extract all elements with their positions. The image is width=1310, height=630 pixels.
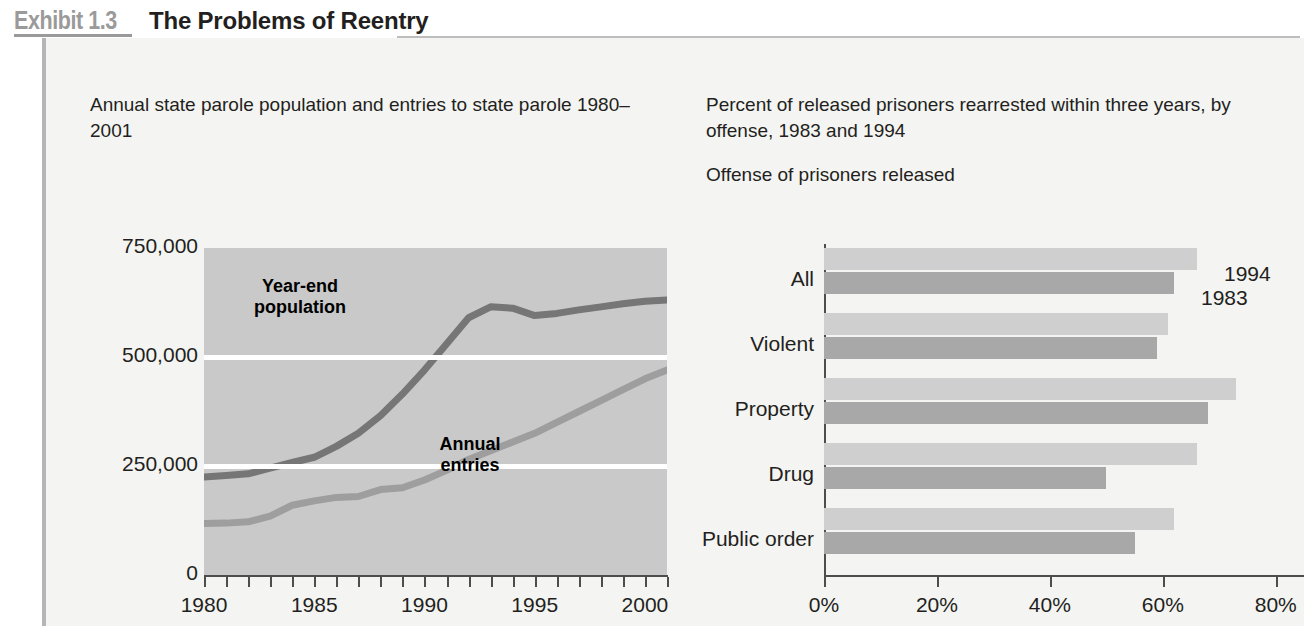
bar-1983-drug	[824, 467, 1106, 489]
line-chart-x-tick	[248, 577, 250, 587]
bar-1983-all	[824, 272, 1174, 294]
bar-1983-violent	[824, 337, 1157, 359]
line-chart: Annual state parole population and entri…	[46, 38, 706, 626]
bar-1994-drug	[824, 443, 1197, 465]
line-chart-gridline	[204, 355, 667, 360]
line-chart-x-tick	[336, 577, 338, 587]
line-chart-x-tick	[579, 577, 581, 587]
bar-chart-x-tick-label: 0%	[784, 593, 864, 617]
bar-chart-x-tick	[1050, 577, 1052, 587]
line-chart-x-tick	[204, 577, 206, 587]
bar-chart-category-label: Property	[614, 397, 814, 421]
bar-1994-property	[824, 378, 1236, 400]
line-chart-x-tick	[535, 577, 537, 587]
line-chart-x-tick-label: 1990	[384, 593, 464, 617]
bar-chart: Percent of released prisoners rearrested…	[706, 38, 1304, 626]
line-chart-x-tick-label: 1995	[495, 593, 575, 617]
bar-chart-x-tick	[1163, 577, 1165, 587]
bar-legend-1994: 1994	[1224, 262, 1271, 286]
bar-chart-category-label: Violent	[614, 332, 814, 356]
bar-chart-x-tick	[1276, 577, 1278, 587]
line-chart-x-tick	[469, 577, 471, 587]
exhibit-number: Exhibit 1.3	[14, 6, 117, 35]
bar-chart-category-label: Public order	[614, 527, 814, 551]
annotation-annual-entries: Annual entries	[410, 434, 530, 476]
line-chart-x-tick	[424, 577, 426, 587]
bar-chart-x-tick-label: 80%	[1236, 593, 1310, 617]
bar-chart-x-tick-label: 60%	[1123, 593, 1203, 617]
line-chart-x-tick	[226, 577, 228, 587]
bar-chart-x-tick-label: 20%	[897, 593, 977, 617]
line-chart-x-tick-label: 1980	[164, 593, 244, 617]
exhibit-header: Exhibit 1.3 The Problems of Reentry	[14, 4, 1300, 38]
bar-chart-x-tick-label: 40%	[1010, 593, 1090, 617]
line-chart-x-tick	[380, 577, 382, 587]
bar-1994-violent	[824, 313, 1168, 335]
line-chart-x-tick	[402, 577, 404, 587]
line-chart-x-tick	[513, 577, 515, 587]
bar-chart-x-tick	[937, 577, 939, 587]
bar-1983-property	[824, 402, 1208, 424]
bar-legend-1983: 1983	[1201, 286, 1248, 310]
line-chart-x-tick	[314, 577, 316, 587]
bar-1994-public-order	[824, 508, 1174, 530]
line-chart-x-tick	[491, 577, 493, 587]
line-chart-x-tick-label: 1985	[274, 593, 354, 617]
line-chart-y-tick-label: 0	[58, 561, 198, 585]
exhibit-title: The Problems of Reentry	[149, 7, 428, 35]
bar-1983-public-order	[824, 532, 1135, 554]
line-chart-y-tick-label: 500,000	[58, 343, 198, 367]
line-chart-x-axis-line	[204, 575, 668, 577]
line-chart-y-tick-label: 750,000	[58, 234, 198, 258]
line-chart-x-tick	[447, 577, 449, 587]
line-chart-x-tick	[601, 577, 603, 587]
line-chart-x-tick	[557, 577, 559, 587]
line-chart-x-tick	[358, 577, 360, 587]
exhibit-number-underline	[14, 34, 132, 37]
bar-1994-all	[824, 248, 1197, 270]
line-chart-x-tick	[270, 577, 272, 587]
line-chart-y-tick-label: 250,000	[58, 452, 198, 476]
line-chart-x-tick	[292, 577, 294, 587]
bar-chart-category-label: All	[614, 267, 814, 291]
exhibit-panel: Annual state parole population and entri…	[42, 38, 1304, 626]
line-chart-y-axis: 0250,000500,000750,000	[54, 38, 198, 626]
bar-chart-category-labels: AllViolentPropertyDrugPublic order	[614, 38, 814, 626]
bar-chart-x-axis-line	[824, 575, 1304, 577]
bar-chart-x-tick	[824, 577, 826, 587]
bar-chart-category-label: Drug	[614, 462, 814, 486]
annotation-year-end-population: Year-end population	[230, 276, 370, 318]
